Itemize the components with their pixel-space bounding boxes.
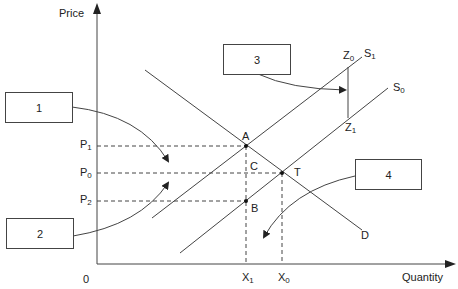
callout-arrow-1 <box>72 107 168 161</box>
point-label-z1: Z1 <box>345 122 356 135</box>
supply-label-s1: S1 <box>364 48 376 61</box>
y-axis-label: Price <box>59 8 84 19</box>
price-label-p1: P1 <box>80 139 92 152</box>
point-label-a: A <box>242 131 249 142</box>
x-axis-arrow-icon <box>445 260 456 268</box>
price-guides <box>97 146 282 201</box>
point-label-c: C <box>250 161 258 172</box>
x-axis-label: Quantity <box>402 272 443 283</box>
demand-label: D <box>361 230 369 241</box>
callout-box-4: 4 <box>355 159 422 190</box>
y-axis <box>93 3 101 264</box>
point-b <box>244 199 248 203</box>
price-label-p2: P2 <box>80 194 92 207</box>
point-label-t: T <box>294 167 301 178</box>
point-label-b: B <box>251 203 258 214</box>
y-axis-arrow-icon <box>93 3 101 14</box>
point-a <box>244 144 248 148</box>
callout-arrow-4 <box>264 176 355 237</box>
point-t <box>280 171 284 175</box>
callout-box-3: 3 <box>223 44 291 75</box>
supply-label-s0: S0 <box>393 82 405 95</box>
price-label-p0: P0 <box>80 167 92 180</box>
callout-arrow-3 <box>258 74 345 90</box>
origin-label: 0 <box>83 274 89 285</box>
callout-box-1: 1 <box>5 92 73 123</box>
point-label-z0: Z0 <box>343 50 354 63</box>
quantity-label-x0: X0 <box>278 272 290 285</box>
x-axis <box>97 260 456 268</box>
supply-curve-s1 <box>152 57 362 218</box>
callout-arrow-2 <box>73 183 168 236</box>
quantity-label-x1: X1 <box>242 272 254 285</box>
callout-box-2: 2 <box>6 218 74 249</box>
